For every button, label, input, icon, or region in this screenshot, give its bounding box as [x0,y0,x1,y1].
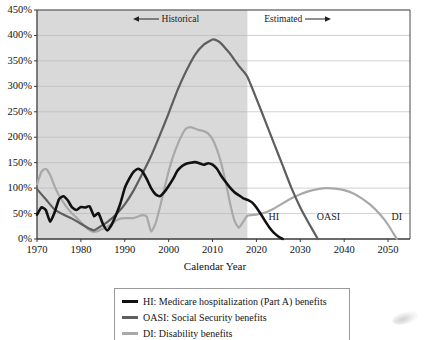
legend-item: OASI: Social Security benefits [122,310,349,325]
legend-line-swatch [122,316,138,318]
x-axis-tick-label: 2050 [368,245,408,256]
annotation-text: Estimated [264,15,302,25]
y-axis-tick-label: 400% [8,30,33,41]
y-axis-tick-label: 150% [8,158,33,169]
historical-shading [37,10,248,239]
x-axis-tick-label: 1980 [61,245,101,256]
y-axis-tick-label: 200% [8,132,33,143]
x-axis-title: Calendar Year [0,260,430,272]
x-axis-tick-label: 2040 [324,245,364,256]
legend-line-swatch [122,300,138,303]
y-axis-tick-label: 250% [8,107,33,118]
series-end-label-hi: HI [269,212,280,222]
y-axis-tick-label: 300% [8,81,33,92]
arrow-left-icon [133,15,159,26]
y-axis-tick-label: 450% [8,5,33,16]
legend-item-label: OASI: Social Security benefits [143,313,267,323]
series-end-label-di: DI [391,212,402,222]
x-axis-tick-label: 1970 [17,245,57,256]
estimated-background [248,10,410,239]
x-axis-tick-label: 2000 [149,245,189,256]
y-axis-tick-label: 0% [18,234,32,245]
y-axis-tick-label: 50% [13,209,32,220]
x-axis-tick-label: 1990 [105,245,145,256]
x-axis-tick-label: 2020 [236,245,276,256]
estimated-annotation: Estimated [264,15,331,26]
historical-annotation: Historical [133,15,199,26]
legend-line-swatch [122,332,138,334]
legend-item: HI: Medicare hospitalization (Part A) be… [122,294,349,309]
y-axis-tick-label: 350% [8,56,33,67]
series-end-label-oasi: OASI [317,212,340,222]
chart-legend: HI: Medicare hospitalization (Part A) be… [114,288,350,340]
annotation-text: Historical [162,15,199,25]
x-axis-tick-label: 2010 [193,245,233,256]
legend-item: DI: Disability benefits [122,326,349,340]
x-axis-tick-label: 2030 [280,245,320,256]
legend-item-label: DI: Disability benefits [143,329,232,339]
y-axis-tick-label: 100% [8,183,33,194]
legend-item-label: HI: Medicare hospitalization (Part A) be… [143,297,327,307]
arrow-right-icon [305,15,331,26]
